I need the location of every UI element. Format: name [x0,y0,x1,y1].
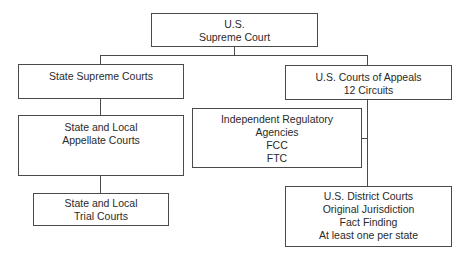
node-text: At least one per state [286,229,451,242]
node-us-district-courts: U.S. District Courts Original Jurisdicti… [285,186,452,247]
node-text: U.S. Courts of Appeals [286,71,451,84]
connector-regulatory-branch [361,138,368,139]
node-text: FTC [193,152,361,165]
connector-appellate-to-trial [100,175,101,193]
node-independent-regulatory-agencies: Independent Regulatory Agencies FCC FTC [192,108,362,168]
connector-to-state-supreme [100,55,101,64]
node-text: U.S. District Courts [286,190,451,203]
node-text: Agencies [193,126,361,139]
node-text: Independent Regulatory [193,113,361,126]
node-text: State and Local [34,197,168,210]
node-us-supreme-court: U.S. Supreme Court [151,13,318,47]
connector-top-horizontal [100,55,368,56]
node-text: State Supreme Courts [19,70,183,83]
connector-to-appeals [367,55,368,65]
node-text: FCC [193,139,361,152]
node-text: Supreme Court [152,31,317,44]
node-state-local-trial-courts: State and Local Trial Courts [33,193,169,226]
node-text: Trial Courts [34,210,168,223]
node-text: 12 Circuits [286,84,451,97]
node-state-local-appellate-courts: State and Local Appellate Courts [18,115,184,176]
node-text: State and Local [19,121,183,134]
connector-appeals-to-district [367,99,368,186]
node-text: Appellate Courts [19,134,183,147]
node-text: U.S. [152,18,317,31]
node-text: Fact Finding [286,216,451,229]
node-us-courts-of-appeals: U.S. Courts of Appeals 12 Circuits [285,65,452,100]
connector-state-supreme-to-appellate [100,98,101,115]
node-state-supreme-courts: State Supreme Courts [18,64,184,99]
node-text: Original Jurisdiction [286,203,451,216]
